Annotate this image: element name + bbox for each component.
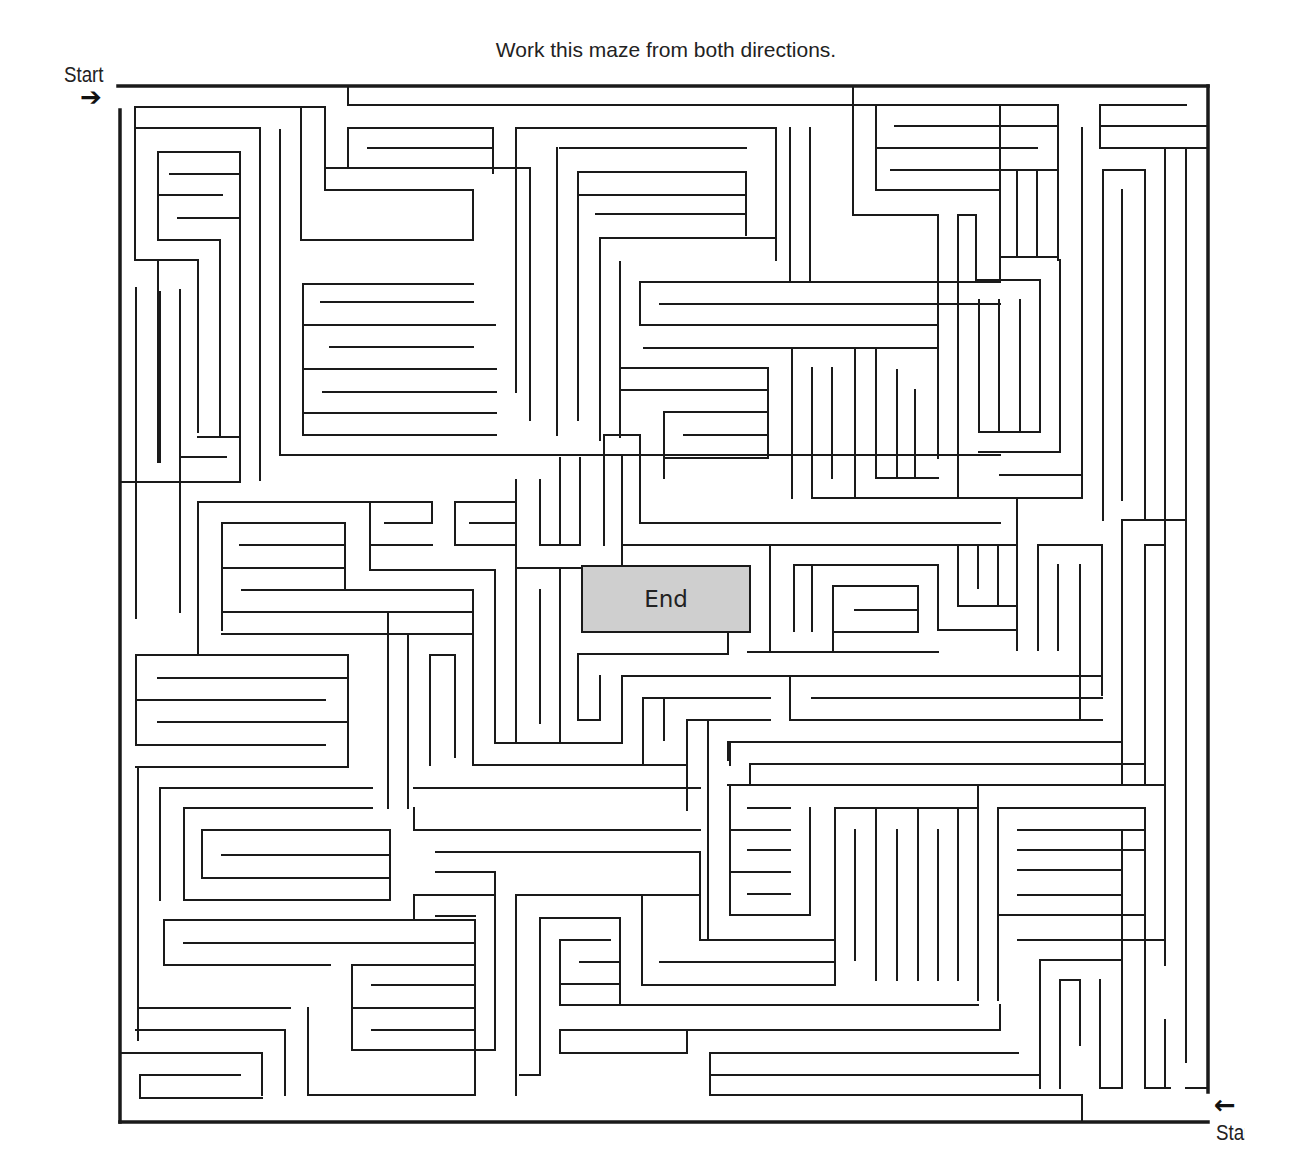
end-label: End [582,566,750,632]
